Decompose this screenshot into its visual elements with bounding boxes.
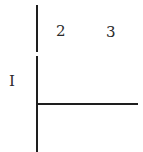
- horizontal-line: [37, 103, 138, 105]
- label-top-right: 3: [106, 25, 116, 40]
- vertical-line-upper: [36, 5, 38, 52]
- label-top-left: 2: [56, 24, 66, 39]
- label-left: I: [9, 74, 15, 89]
